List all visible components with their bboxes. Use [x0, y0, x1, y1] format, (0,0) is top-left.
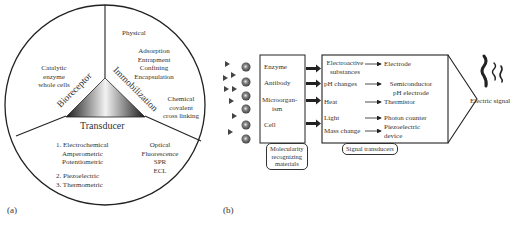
signal-input-ph: pH changes	[324, 80, 357, 89]
signal-input-heat: Heat	[324, 98, 337, 107]
electric-signal-label: Electric signal	[470, 97, 510, 106]
signal-input-mass: Mass change	[324, 127, 360, 136]
panel-b-label: (b)	[223, 206, 234, 215]
recognizing-microorganism: Microorgan- ism	[262, 96, 304, 113]
signal-input-light: Light	[324, 114, 339, 123]
signal-output-semiconductor: Semiconductor pH electrode	[383, 80, 439, 97]
signal-input-electroactive: Electroactive substances	[324, 59, 366, 76]
analyte-icons	[223, 61, 237, 135]
recognizing-antibody: Antibody	[264, 79, 290, 88]
signal-output-electrode: Electrode	[384, 60, 411, 69]
recognizing-cell: Cell	[264, 121, 276, 130]
signal-output-thermistor: Thermistor	[384, 98, 415, 107]
transducer-caption: Signal transducers	[342, 143, 398, 155]
signal-output-piezo: Piezoelectric device	[384, 123, 420, 140]
receptor-icons	[242, 63, 251, 144]
block-arrows	[306, 65, 321, 128]
recognizing-enzyme: Enzyme	[264, 63, 287, 72]
recognizing-caption: Molecularity recognizing materials	[266, 143, 308, 170]
signal-output-photon: Photon counter	[384, 114, 427, 123]
panel-b-graphics	[0, 0, 515, 230]
electric-signal-icon	[482, 56, 502, 86]
